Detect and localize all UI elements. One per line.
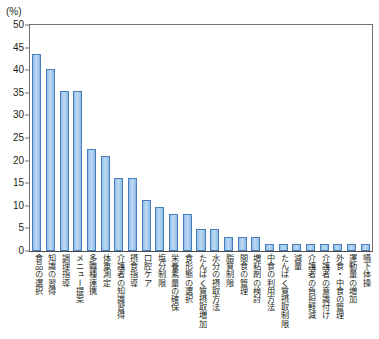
bar-slot bbox=[155, 25, 164, 251]
bar-slot bbox=[292, 25, 301, 251]
x-tick-label: 口腔ケア bbox=[142, 254, 151, 287]
bar bbox=[101, 156, 110, 251]
x-tick-label: たんぱく質摂取制限 bbox=[278, 254, 287, 328]
x-tick-label: 体重測定 bbox=[101, 254, 110, 287]
bar bbox=[32, 54, 41, 251]
x-tick-label: 食形態の選択 bbox=[183, 254, 192, 303]
y-tick-label: 5 bbox=[18, 223, 24, 233]
bar-slot bbox=[60, 25, 69, 251]
bar-slot bbox=[333, 25, 342, 251]
bar bbox=[292, 244, 301, 251]
y-tick-label: 50 bbox=[13, 20, 24, 30]
y-tick-mark bbox=[25, 228, 29, 229]
y-tick-mark bbox=[25, 25, 29, 26]
y-tick-label: 45 bbox=[13, 43, 24, 53]
x-tick-label: 介護者の意識付け bbox=[319, 254, 328, 320]
y-tick-mark bbox=[25, 70, 29, 71]
bar-slot bbox=[101, 25, 110, 251]
bar-slot bbox=[169, 25, 178, 251]
bar-slot bbox=[279, 25, 288, 251]
bar bbox=[155, 207, 164, 251]
x-tick-label: 食品の選択 bbox=[32, 254, 41, 295]
bar-chart: (%) (n=62) 50454035302520151050 食品の選択知識の… bbox=[0, 0, 379, 339]
bar bbox=[306, 244, 315, 251]
x-tick-label: 運動量の増加 bbox=[347, 254, 356, 303]
y-tick-mark bbox=[25, 138, 29, 139]
bar bbox=[347, 244, 356, 251]
bar bbox=[87, 149, 96, 251]
bar-slot bbox=[361, 25, 370, 251]
bar-slot bbox=[210, 25, 219, 251]
y-tick-mark bbox=[25, 47, 29, 48]
bar-slot bbox=[320, 25, 329, 251]
bar bbox=[46, 69, 55, 251]
bar bbox=[265, 244, 274, 251]
bar bbox=[128, 178, 137, 251]
bar bbox=[196, 229, 205, 251]
x-tick-label: 水分の摂取方法 bbox=[210, 254, 219, 311]
bar-slot bbox=[238, 25, 247, 251]
x-tick-label: 脂質制限 bbox=[224, 254, 233, 287]
bar-slot bbox=[142, 25, 151, 251]
x-axis-labels: 食品の選択知識の習得調理指導メニュー提案多職種連携体重測定介護者の知識習得摂食指… bbox=[30, 254, 372, 339]
y-tick-label: 30 bbox=[13, 110, 24, 120]
bar-slot bbox=[87, 25, 96, 251]
bar-slot bbox=[196, 25, 205, 251]
bar bbox=[320, 244, 329, 251]
bar-slot bbox=[73, 25, 82, 251]
y-tick-mark bbox=[25, 160, 29, 161]
x-tick-label: 介護者の知識習得 bbox=[114, 254, 123, 320]
bar-slot bbox=[265, 25, 274, 251]
bar bbox=[279, 244, 288, 251]
bar bbox=[210, 229, 219, 251]
bar bbox=[224, 237, 233, 251]
y-tick-mark bbox=[25, 183, 29, 184]
bar bbox=[73, 91, 82, 251]
bars-layer bbox=[30, 25, 372, 251]
x-tick-label: 外食・中食の管理 bbox=[333, 254, 342, 320]
bar-slot bbox=[251, 25, 260, 251]
x-tick-label: 調理指導 bbox=[59, 254, 68, 287]
bar bbox=[142, 200, 151, 251]
x-tick-label: 介護者の負担軽減 bbox=[306, 254, 315, 320]
y-tick-label: 20 bbox=[13, 156, 24, 166]
x-tick-label: 中食の利用方法 bbox=[265, 254, 274, 311]
bar bbox=[183, 214, 192, 251]
bar bbox=[114, 178, 123, 251]
x-tick-label: メニュー提案 bbox=[73, 254, 82, 303]
y-tick-label: 40 bbox=[13, 65, 24, 75]
y-axis-unit-label: (%) bbox=[6, 6, 22, 17]
bar-slot bbox=[32, 25, 41, 251]
x-tick-label: 多職種連携 bbox=[87, 254, 96, 295]
x-tick-label: 嚥下体操 bbox=[360, 254, 369, 287]
x-tick-label: 栄養素量の確保 bbox=[169, 254, 178, 311]
bar-slot bbox=[306, 25, 315, 251]
x-tick-label: 摂食指導 bbox=[128, 254, 137, 287]
bar-slot bbox=[114, 25, 123, 251]
y-tick-label: 10 bbox=[13, 201, 24, 211]
bar bbox=[169, 214, 178, 251]
x-tick-label: たんぱく質摂取増加 bbox=[196, 254, 205, 328]
x-tick-label: 増粘剤の検討 bbox=[251, 254, 260, 303]
bar-slot bbox=[183, 25, 192, 251]
y-tick-label: 15 bbox=[13, 178, 24, 188]
bar bbox=[333, 244, 342, 251]
x-tick-label: 間食の管理 bbox=[237, 254, 246, 295]
x-tick-label: 知識の習得 bbox=[46, 254, 55, 295]
y-tick-label: 35 bbox=[13, 88, 24, 98]
bar-slot bbox=[128, 25, 137, 251]
bar-slot bbox=[46, 25, 55, 251]
y-tick-mark bbox=[25, 115, 29, 116]
y-axis: 50454035302520151050 bbox=[0, 24, 29, 252]
y-tick-mark bbox=[25, 251, 29, 252]
y-tick-label: 25 bbox=[13, 133, 24, 143]
bar-slot bbox=[224, 25, 233, 251]
y-tick-label: 0 bbox=[18, 246, 24, 256]
bar-slot bbox=[347, 25, 356, 251]
x-tick-label: 減量 bbox=[292, 254, 301, 270]
bar bbox=[238, 237, 247, 251]
x-tick-label: 塩分制限 bbox=[155, 254, 164, 287]
bar bbox=[251, 237, 260, 251]
bar bbox=[361, 244, 370, 251]
bar bbox=[60, 91, 69, 251]
